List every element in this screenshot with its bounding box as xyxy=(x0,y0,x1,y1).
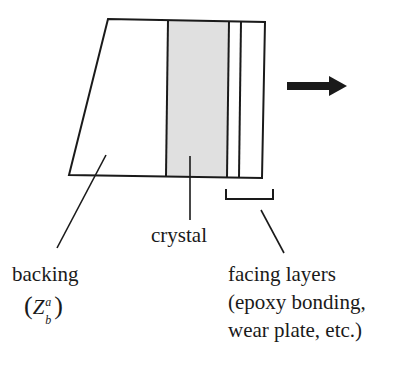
impedance-close-paren: ) xyxy=(54,291,63,320)
arrow-right-icon xyxy=(287,76,347,96)
crystal-label: crystal xyxy=(151,223,207,247)
backing-impedance: (Zab) xyxy=(24,294,63,334)
impedance-subscript: b xyxy=(45,308,51,332)
impedance-symbol: Z xyxy=(33,295,45,319)
crystal-layer xyxy=(166,20,229,177)
backing-label: backing xyxy=(12,262,78,286)
impedance-open-paren: ( xyxy=(24,291,33,320)
facing-leader-line xyxy=(261,210,284,253)
facing-layers-label: facing layers xyxy=(228,262,336,286)
facing-layers-bracket xyxy=(226,189,273,199)
backing-leader-line xyxy=(57,155,106,248)
facing-layers-detail-2: wear plate, etc.) xyxy=(228,318,362,342)
epoxy-wearplate-boundary xyxy=(239,21,241,177)
facing-layers-detail-1: (epoxy bonding, xyxy=(228,290,366,314)
